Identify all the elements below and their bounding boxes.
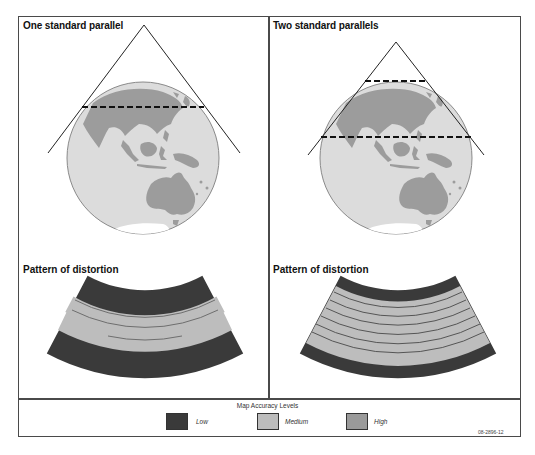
legend-label-high: High <box>374 418 387 425</box>
globe-right <box>320 82 472 238</box>
projection-illustrations <box>0 0 535 455</box>
legend-label-medium: Medium <box>285 418 308 425</box>
legend-swatch-high <box>346 413 368 430</box>
legend-swatch-medium <box>257 413 279 430</box>
legend-title: Map Accuracy Levels <box>0 402 535 409</box>
legend-swatch-low <box>166 413 188 430</box>
distortion-fan-right <box>300 276 496 379</box>
globe-left <box>67 82 219 238</box>
distortion-fan-left <box>47 276 243 379</box>
figure-id: 08-2896-12 <box>478 429 504 435</box>
legend-label-low: Low <box>196 418 208 425</box>
